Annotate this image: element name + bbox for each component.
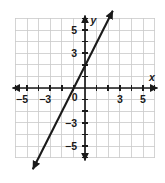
x-tick-label-3: 3	[117, 93, 123, 105]
y-tick-label--5: −5	[65, 140, 77, 152]
x-tick-label-5: 5	[140, 93, 146, 105]
x-axis-label: x	[148, 71, 156, 83]
coordinate-plane-figure: −5 −3 3 5 5 3 −3 −5 0 x y	[0, 0, 165, 183]
y-tick-label-3: 3	[71, 47, 77, 59]
y-tick-label--3: −3	[65, 117, 77, 129]
origin-label: 0	[72, 91, 78, 103]
y-axis-label: y	[90, 14, 98, 26]
graph-labels: −5 −3 3 5 5 3 −3 −5 0 x y	[0, 0, 165, 183]
y-tick-label-5: 5	[71, 24, 77, 36]
x-tick-label--5: −5	[16, 93, 28, 105]
x-tick-label--3: −3	[39, 93, 51, 105]
